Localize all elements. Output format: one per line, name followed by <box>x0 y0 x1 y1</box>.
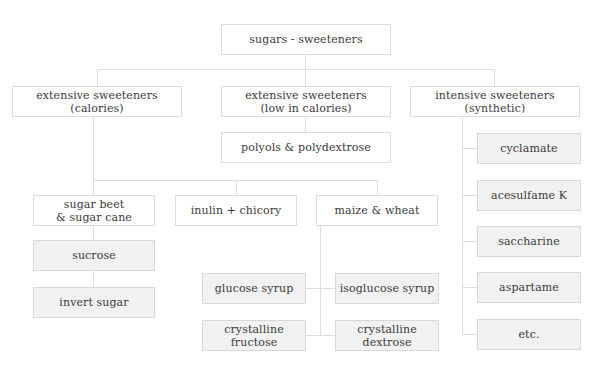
connector-to-maize <box>377 180 378 195</box>
connector-to-cyclamate <box>462 148 477 149</box>
connector-to-beet-cane <box>93 180 94 195</box>
node-label: sucrose <box>72 249 116 262</box>
connector-low-to-polyols <box>305 116 306 132</box>
connector-to-inulin <box>236 180 237 195</box>
node-label: intensive sweeteners (synthetic) <box>435 89 555 115</box>
connector-to-low-calories <box>305 69 306 86</box>
node-label: isoglucose syrup <box>340 282 435 295</box>
node-label: cyclamate <box>500 142 557 155</box>
node-intensive-synthetic: intensive sweeteners (synthetic) <box>410 86 580 117</box>
connector-sucrose-to-invert <box>93 270 94 287</box>
node-crystalline-dextrose: crystalline dextrose <box>335 320 439 351</box>
node-invert-sugar: invert sugar <box>33 287 155 318</box>
node-saccharine: saccharine <box>477 226 581 257</box>
connector-syrups-row <box>305 288 335 289</box>
node-label: polyols & polydextrose <box>241 141 371 154</box>
connector-crystalline-row <box>305 335 335 336</box>
node-label: sugar beet & sugar cane <box>56 198 132 224</box>
node-extensive-low-calories: extensive sweeteners (low in calories) <box>221 86 391 117</box>
node-inulin-chicory: inulin + chicory <box>175 195 297 226</box>
node-etc: etc. <box>477 319 581 350</box>
root-node-sugars-sweeteners: sugars - sweeteners <box>221 24 391 55</box>
connector-calories-down <box>93 116 94 180</box>
connector-to-etc <box>462 334 477 335</box>
connector-level1-bar <box>97 69 495 70</box>
connector-beet-to-sucrose <box>93 225 94 240</box>
connector-to-intensive <box>494 69 495 86</box>
node-cyclamate: cyclamate <box>477 133 581 164</box>
node-glucose-syrup: glucose syrup <box>202 273 306 304</box>
connector-root-down <box>305 54 306 69</box>
node-polyols-polydextrose: polyols & polydextrose <box>221 132 391 163</box>
connector-to-calories <box>97 69 98 86</box>
node-label: crystalline fructose <box>224 323 284 349</box>
root-node-label: sugars - sweeteners <box>249 33 362 46</box>
connector-to-aspartame <box>462 287 477 288</box>
node-label: etc. <box>519 328 540 341</box>
node-sugar-beet-cane: sugar beet & sugar cane <box>33 195 155 226</box>
node-acesulfame-k: acesulfame K <box>477 180 581 211</box>
node-crystalline-fructose: crystalline fructose <box>202 320 306 351</box>
node-label: acesulfame K <box>491 189 567 202</box>
node-sucrose: sucrose <box>33 240 155 271</box>
node-label: crystalline dextrose <box>357 323 417 349</box>
node-label: invert sugar <box>59 296 128 309</box>
node-maize-wheat: maize & wheat <box>316 195 438 226</box>
node-label: inulin + chicory <box>191 204 282 217</box>
node-label: saccharine <box>498 235 560 248</box>
node-aspartame: aspartame <box>477 272 581 303</box>
node-label: glucose syrup <box>215 282 294 295</box>
node-label: extensive sweeteners (calories) <box>36 89 158 115</box>
node-label: extensive sweeteners (low in calories) <box>245 89 367 115</box>
connector-to-saccharine <box>462 241 477 242</box>
connector-to-acesulfame <box>462 195 477 196</box>
node-label: aspartame <box>499 281 559 294</box>
node-label: maize & wheat <box>335 204 420 217</box>
node-extensive-calories: extensive sweeteners (calories) <box>12 86 182 117</box>
connector-maize-down <box>320 225 321 336</box>
node-isoglucose-syrup: isoglucose syrup <box>335 273 439 304</box>
